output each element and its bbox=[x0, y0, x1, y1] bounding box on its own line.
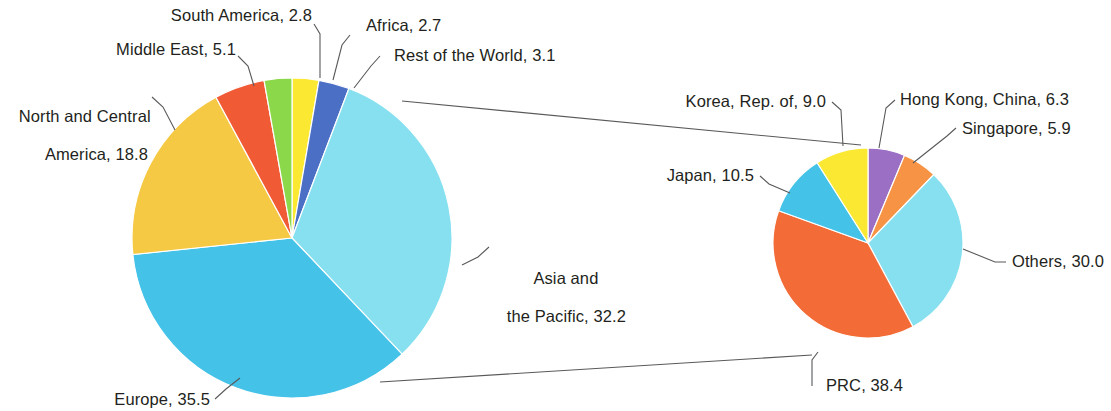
label-africa: Africa, 2.7 bbox=[366, 16, 441, 35]
label-rest-of-world: Rest of the World, 3.1 bbox=[394, 46, 555, 65]
leader-hong-kong bbox=[879, 100, 895, 148]
left-pie-group bbox=[132, 78, 452, 398]
leader-korea bbox=[832, 102, 843, 146]
leader-japan bbox=[760, 176, 790, 193]
label-europe: Europe, 35.5 bbox=[18, 390, 210, 409]
label-south-america: South America, 2.8 bbox=[120, 6, 312, 25]
leader-middle-east bbox=[238, 56, 254, 86]
label-asia-pacific-line2: the Pacific, 32.2 bbox=[507, 307, 626, 325]
label-north-central-america-line1: North and Central bbox=[19, 107, 151, 125]
label-japan: Japan, 10.5 bbox=[574, 166, 754, 185]
label-hong-kong: Hong Kong, China, 6.3 bbox=[900, 90, 1069, 109]
label-asia-pacific: Asia and the Pacific, 32.2 bbox=[482, 250, 632, 345]
pie-chart-figure: South America, 2.8 Africa, 2.7 Middle Ea… bbox=[0, 0, 1111, 411]
label-singapore: Singapore, 5.9 bbox=[962, 119, 1071, 138]
pie-charts-svg bbox=[0, 0, 1111, 411]
leader-africa bbox=[333, 35, 350, 80]
label-prc: PRC, 38.4 bbox=[826, 376, 903, 395]
label-korea: Korea, Rep. of, 9.0 bbox=[636, 92, 826, 111]
leader-south-america bbox=[314, 24, 320, 78]
leader-rest-of-world bbox=[354, 56, 380, 88]
leader-prc bbox=[812, 352, 818, 386]
label-north-central-america: North and Central America, 18.8 bbox=[0, 88, 148, 183]
label-middle-east: Middle East, 5.1 bbox=[44, 40, 236, 59]
leader-singapore bbox=[913, 128, 956, 163]
label-others: Others, 30.0 bbox=[1012, 252, 1104, 271]
connector-bottom bbox=[380, 355, 812, 382]
leader-others bbox=[963, 249, 1006, 262]
label-asia-pacific-line1: Asia and bbox=[533, 269, 598, 287]
label-north-central-america-line2: America, 18.8 bbox=[45, 145, 148, 163]
right-pie-group bbox=[773, 148, 963, 338]
leader-north-central-america bbox=[152, 97, 175, 130]
